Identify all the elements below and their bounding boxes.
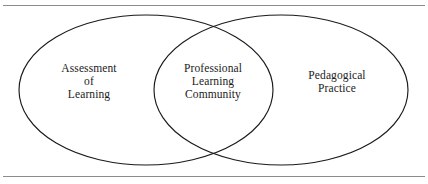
intersection-label: Professional Learning Community [164,62,262,102]
left-set-label: Assessment of Learning [29,62,149,102]
venn-diagram-figure: Assessment of Learning Professional Lear… [0,0,428,184]
right-set-label: Pedagogical Practice [279,69,395,95]
